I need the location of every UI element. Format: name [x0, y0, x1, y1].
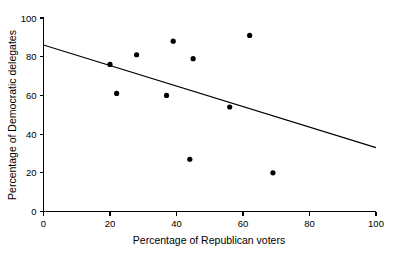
data-point — [227, 104, 232, 109]
data-point — [191, 56, 196, 61]
data-point — [164, 93, 169, 98]
x-axis-ticks: 020406080100 — [41, 212, 384, 229]
trend-line-group — [44, 45, 377, 148]
x-tick-label: 80 — [304, 218, 315, 229]
scatter-plot-figure: 020406080100 020406080100 Percentage of … — [0, 0, 395, 255]
y-tick-label: 0 — [31, 206, 36, 217]
y-tick-label: 100 — [21, 13, 37, 24]
y-tick-label: 60 — [26, 90, 37, 101]
y-tick-label: 80 — [26, 51, 37, 62]
x-tick-label: 100 — [368, 218, 384, 229]
data-point — [270, 170, 275, 175]
data-point — [187, 157, 192, 162]
data-points-group — [107, 33, 275, 176]
y-tick-label: 20 — [26, 167, 37, 178]
y-axis-title: Percentage of Democratic delegates — [6, 30, 18, 200]
x-tick-label: 60 — [238, 218, 249, 229]
y-axis-ticks: 020406080100 — [21, 13, 44, 218]
plot-canvas: 020406080100 020406080100 Percentage of … — [0, 0, 395, 255]
regression-trend-line — [44, 45, 377, 148]
data-point — [114, 91, 119, 96]
x-tick-label: 0 — [41, 218, 46, 229]
x-axis-title: Percentage of Republican voters — [133, 234, 285, 246]
data-point — [107, 62, 112, 67]
y-tick-label: 40 — [26, 129, 37, 140]
data-point — [247, 33, 252, 38]
x-tick-label: 20 — [105, 218, 116, 229]
x-tick-label: 40 — [171, 218, 182, 229]
data-point — [171, 39, 176, 44]
data-point — [134, 52, 139, 57]
